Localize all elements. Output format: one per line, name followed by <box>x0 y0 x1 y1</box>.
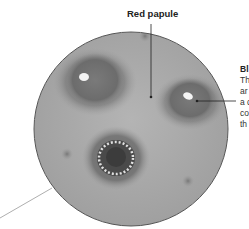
label-blister-line: a c <box>240 97 249 108</box>
label-blister-line: co <box>240 108 249 119</box>
blister-right <box>164 78 216 122</box>
label-blister-title: Bl <box>240 64 249 75</box>
label-blister: Bl Th ar a c co th <box>240 64 249 130</box>
label-red-papule: Red papule <box>127 8 178 19</box>
label-blister-line: th <box>240 119 249 130</box>
crusted-lesion-core <box>106 147 126 167</box>
lesion-illustration <box>0 0 249 229</box>
blister-left <box>65 53 125 107</box>
highlight-left <box>79 73 89 81</box>
leader-dot-red-papule <box>150 96 153 99</box>
spot-1 <box>61 148 73 160</box>
spot-3 <box>139 30 151 42</box>
leader-line-bottom <box>0 188 52 218</box>
label-blister-line: ar <box>240 86 249 97</box>
label-blister-line: Th <box>240 75 249 86</box>
spot-2 <box>182 175 194 187</box>
leader-dot-blister <box>196 100 199 103</box>
